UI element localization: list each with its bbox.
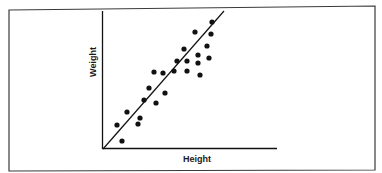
data-point	[174, 58, 179, 63]
data-point	[209, 19, 214, 24]
scatter-chart: Height Weight	[0, 0, 382, 173]
data-point	[195, 52, 200, 57]
data-point	[124, 109, 129, 114]
plot-area	[102, 11, 277, 149]
data-point	[160, 70, 165, 75]
x-axis-label: Height	[183, 154, 211, 164]
data-point	[153, 100, 158, 105]
data-point	[171, 68, 176, 73]
data-point	[119, 138, 124, 143]
data-point	[197, 72, 202, 77]
data-point	[181, 46, 186, 51]
data-point	[135, 121, 140, 126]
trend-line	[103, 11, 224, 149]
data-point	[192, 29, 197, 34]
data-point	[141, 97, 146, 102]
data-point	[206, 55, 211, 60]
y-axis-label: Weight	[88, 47, 98, 77]
data-point	[204, 43, 209, 48]
data-point	[162, 90, 167, 95]
data-point	[137, 115, 142, 120]
data-point	[114, 122, 119, 127]
data-point	[146, 85, 151, 90]
data-point	[195, 60, 200, 65]
data-point	[184, 58, 189, 63]
data-point	[208, 31, 213, 36]
data-point	[151, 69, 156, 74]
figure-frame	[9, 6, 375, 171]
data-point	[184, 68, 189, 73]
